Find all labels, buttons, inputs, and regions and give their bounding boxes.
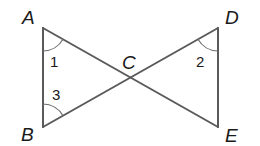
vertex-label-e: E <box>225 125 238 146</box>
vertex-label-a: A <box>21 7 35 28</box>
angle-label-1: 1 <box>50 53 58 70</box>
vertex-label-d: D <box>225 7 239 28</box>
angle-label-3: 3 <box>52 86 60 103</box>
angle-1-arc <box>43 39 63 51</box>
angle-label-2: 2 <box>196 53 204 70</box>
geometry-figure: A B C D E 1 3 2 <box>0 0 260 146</box>
angle-3-arc <box>43 104 63 116</box>
vertex-label-c: C <box>122 52 136 73</box>
angle-2-arc <box>198 39 218 51</box>
vertex-label-b: B <box>21 124 34 145</box>
